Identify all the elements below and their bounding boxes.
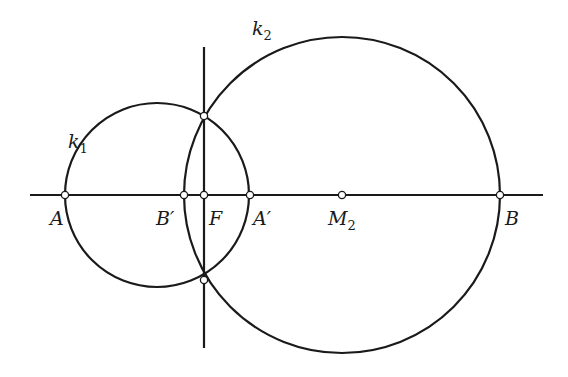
geometry-figure: k1 k2 A B′ F A′ M2 B — [0, 0, 568, 377]
label-M2: M2 — [327, 207, 356, 233]
point-lower-intersection — [200, 276, 207, 283]
label-B-prime: B′ — [155, 207, 175, 229]
point-a — [61, 191, 68, 198]
shapes — [30, 37, 543, 353]
label-B: B — [504, 207, 519, 229]
points — [61, 112, 503, 283]
point-f — [200, 191, 207, 198]
point-m2 — [338, 191, 345, 198]
label-k1: k1 — [68, 130, 88, 156]
point-upper-intersection — [200, 112, 207, 119]
point-b — [496, 191, 503, 198]
label-A: A — [48, 207, 64, 229]
diagram-canvas: k1 k2 A B′ F A′ M2 B — [0, 0, 568, 377]
label-k2: k2 — [252, 17, 272, 43]
point-a-prime — [246, 191, 253, 198]
point-b-prime — [180, 191, 187, 198]
label-F: F — [208, 207, 223, 229]
label-A-prime: A′ — [251, 207, 272, 229]
